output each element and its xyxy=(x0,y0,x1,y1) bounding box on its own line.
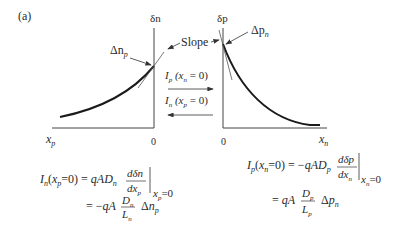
right-equation: Ip(xn=0) = −qADp dδp dxn xn=0 = qA Dp Lp… xyxy=(246,153,382,218)
right-eval-subscript: xn=0 xyxy=(360,173,382,188)
left-eval-subscript: xp=0 xyxy=(152,187,174,202)
figure-label: (a) xyxy=(18,9,31,23)
left-point-label: Δnp xyxy=(110,43,128,59)
ip-current-label: Ip (xn = 0) xyxy=(164,69,208,84)
right-ratio-numerator: Dp xyxy=(301,187,314,202)
right-equation-line2: = qA xyxy=(272,193,296,207)
right-equation-delta-pn: Δpn xyxy=(321,193,339,209)
left-x-axis-label: xp xyxy=(45,132,55,148)
right-origin-label: 0 xyxy=(221,136,226,147)
slope-arrow-left xyxy=(168,43,180,49)
right-ratio-denominator: Lp xyxy=(301,203,312,218)
left-equation-line2: = −qA xyxy=(86,199,117,213)
right-point-label: Δpn xyxy=(251,23,269,39)
left-origin-label: 0 xyxy=(151,136,156,147)
slope-label: Slope xyxy=(181,35,208,49)
right-x-axis-label: xn xyxy=(318,132,328,148)
left-equation: In(xp=0) = qADn dδn dxp xp=0 = −qA Dn Ln… xyxy=(39,167,174,223)
right-point-arrow xyxy=(226,32,248,44)
diagram-canvas: (a) δn xp 0 Δnp Slope Ip (xn = 0) In (xp… xyxy=(0,0,407,235)
in-current-label: In (xp = 0) xyxy=(164,94,208,109)
slope-arrow-right xyxy=(211,40,219,42)
left-equation-delta-np: Δnp xyxy=(141,199,159,215)
left-ratio-denominator: Ln xyxy=(121,208,132,223)
right-slope-tangent xyxy=(219,30,232,80)
left-excess-electron-curve xyxy=(60,66,154,117)
left-slope-tangent xyxy=(138,52,164,88)
right-plot: δp xn 0 Δpn xyxy=(217,12,328,148)
right-equation-line1: Ip(xn=0) = −qADp xyxy=(246,158,331,174)
right-derivative-denominator: dxn xyxy=(338,168,352,183)
left-plot: δn xp 0 Δnp xyxy=(45,12,164,148)
right-derivative-numerator: dδp xyxy=(338,153,355,165)
left-y-axis-label: δn xyxy=(150,12,161,24)
left-equation-line1: In(xp=0) = qADn xyxy=(39,172,117,188)
left-derivative-numerator: dδn xyxy=(127,167,144,179)
left-point-arrow xyxy=(130,58,151,65)
right-y-axis-label: δp xyxy=(217,12,228,24)
right-excess-hole-curve xyxy=(223,44,320,125)
